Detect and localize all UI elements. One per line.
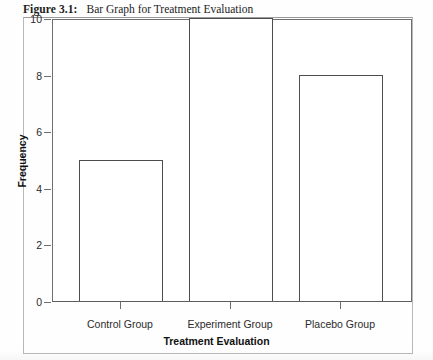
y-tick-label: 2 [20, 240, 42, 250]
x-tick-label: Placebo Group [280, 318, 400, 330]
y-tick-mark [44, 302, 51, 303]
figure-title: Bar Graph for Treatment Evaluation [87, 3, 254, 15]
y-tick-label: 0 [20, 297, 42, 307]
y-tick-label: 10 [20, 14, 42, 24]
y-tick-mark [44, 132, 51, 133]
bar-experiment-group [189, 18, 273, 301]
y-tick-mark [44, 189, 51, 190]
x-tick-label: Control Group [60, 318, 180, 330]
y-tick-label: 8 [20, 71, 42, 81]
x-tick-label: Experiment Group [170, 318, 290, 330]
y-tick-mark [44, 245, 51, 246]
bar-control-group [79, 160, 163, 302]
plot-area [52, 19, 412, 302]
y-axis-title: Frequency [16, 101, 28, 221]
figure-page: Figure 3.1:Bar Graph for Treatment Evalu… [0, 0, 433, 360]
bar-placebo-group [299, 75, 383, 301]
y-tick-mark [44, 76, 51, 77]
x-tick-mark [230, 302, 231, 309]
figure-caption: Figure 3.1:Bar Graph for Treatment Evalu… [23, 2, 423, 18]
y-tick-mark [44, 19, 51, 20]
x-tick-mark [120, 302, 121, 309]
x-tick-mark [340, 302, 341, 309]
x-axis-title: Treatment Evaluation [0, 335, 433, 347]
